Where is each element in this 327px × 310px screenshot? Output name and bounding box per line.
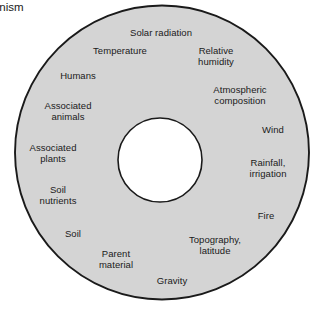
- ring-label: Solar radiation: [130, 27, 192, 38]
- ring-label: Humans: [60, 70, 96, 81]
- ring-label: Topography, latitude: [189, 234, 241, 256]
- ring-label: Parent material: [99, 248, 133, 270]
- ring-label: Fire: [258, 210, 275, 221]
- crop-organism-diagram: Solar radiationTemperatureRelative humid…: [0, 0, 327, 310]
- core-label: Crop organism: [0, 0, 24, 14]
- ring-label: Atmospheric composition: [213, 84, 266, 106]
- ring-label: Soil nutrients: [40, 184, 77, 206]
- ring-label: Associated plants: [30, 142, 77, 164]
- ring-label: Rainfall, irrigation: [250, 157, 287, 179]
- ring-label: Soil: [65, 228, 81, 239]
- ring-label: Temperature: [93, 45, 147, 56]
- ring-label: Wind: [262, 124, 284, 135]
- ring-label: Associated animals: [45, 100, 92, 122]
- ring-label: Relative humidity: [198, 45, 234, 67]
- ring-label: Gravity: [157, 275, 187, 286]
- inner-core-circle: [118, 118, 202, 202]
